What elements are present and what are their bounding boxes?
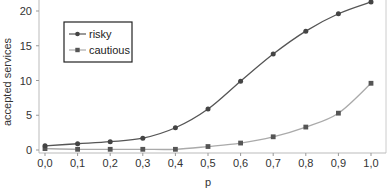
data-point	[173, 125, 178, 130]
data-point	[271, 52, 276, 57]
y-tick-label: 0	[26, 144, 32, 156]
data-point	[336, 111, 341, 116]
data-point	[108, 139, 113, 144]
legend-label-risky: risky	[89, 28, 112, 40]
y-tick-label: 5	[26, 109, 32, 121]
data-point	[238, 79, 243, 84]
data-point	[238, 141, 243, 146]
x-tick-label: 0,4	[168, 157, 183, 169]
x-tick-label: 0,1	[70, 157, 85, 169]
y-tick-label: 15	[20, 40, 32, 52]
data-point	[206, 106, 211, 111]
data-point	[206, 144, 211, 149]
x-tick-label: 0,6	[233, 157, 248, 169]
data-point	[108, 147, 113, 152]
line-chart: 05101520 0,00,10,20,30,40,50,60,70,80,91…	[0, 0, 391, 190]
data-point	[271, 134, 276, 139]
x-tick-label: 0,7	[266, 157, 281, 169]
data-point	[369, 81, 374, 86]
data-point	[173, 147, 178, 152]
data-point	[43, 143, 48, 148]
y-tick-label: 10	[20, 75, 32, 87]
data-point	[303, 125, 308, 130]
legend-label-cautious: cautious	[89, 44, 130, 56]
data-point	[336, 11, 341, 16]
data-point	[75, 141, 80, 146]
x-tick-label: 0,8	[298, 157, 313, 169]
data-point	[140, 136, 145, 141]
y-axis-title: accepted services	[1, 37, 13, 126]
y-tick-label: 20	[20, 5, 32, 17]
x-tick-label: 0,5	[200, 157, 215, 169]
x-tick-label: 0,0	[37, 157, 52, 169]
square-marker-icon	[75, 48, 79, 52]
x-tick-label: 0,3	[135, 157, 150, 169]
data-point	[140, 147, 145, 152]
circle-marker-icon	[75, 32, 80, 37]
data-point	[303, 29, 308, 34]
x-axis-title: p	[205, 176, 211, 188]
x-tick-label: 0,2	[103, 157, 118, 169]
x-tick-label: 1,0	[363, 157, 378, 169]
legend: risky cautious	[64, 22, 132, 62]
x-tick-label: 0,9	[331, 157, 346, 169]
data-point	[75, 147, 80, 152]
